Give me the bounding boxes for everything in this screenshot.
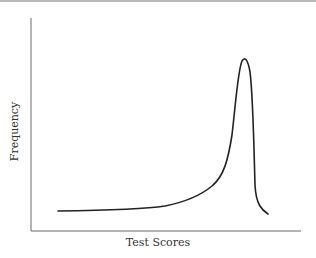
y-axis-label: Frequency	[8, 92, 21, 172]
x-axis-label: Test Scores	[0, 236, 316, 249]
chart-plot	[0, 0, 316, 258]
distribution-curve	[58, 59, 268, 214]
